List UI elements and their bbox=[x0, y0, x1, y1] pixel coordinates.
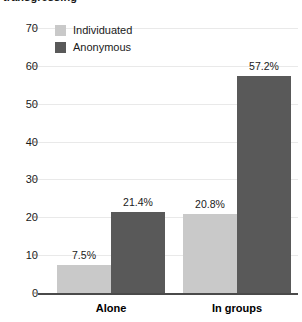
legend-swatch-icon bbox=[55, 25, 66, 36]
bar-in-groups-anonymous bbox=[237, 76, 291, 293]
legend-label: Anonymous bbox=[73, 42, 131, 53]
legend-label: Individuated bbox=[73, 25, 132, 36]
x-axis-line bbox=[38, 293, 298, 295]
y-axis-tick-mark bbox=[33, 255, 38, 256]
bar-alone-individuated bbox=[57, 265, 111, 293]
legend-swatch-icon bbox=[55, 42, 66, 53]
plot-area: 7.5%21.4%20.8%57.2% bbox=[38, 28, 298, 293]
x-axis-category-label: Alone bbox=[57, 302, 165, 314]
y-axis-tick-mark bbox=[33, 103, 38, 104]
y-axis-tick-mark bbox=[33, 179, 38, 180]
bar-value-label: 21.4% bbox=[105, 197, 171, 208]
bar-chart: transgressing 010203040506070 7.5%21.4%2… bbox=[0, 0, 302, 322]
x-axis-category-label: In groups bbox=[183, 302, 291, 314]
y-axis-tick-mark bbox=[33, 28, 38, 29]
bar-value-label: 7.5% bbox=[51, 250, 117, 261]
y-axis-tick-mark bbox=[33, 217, 38, 218]
y-axis-tick-mark bbox=[33, 293, 38, 294]
bar-in-groups-individuated bbox=[183, 214, 237, 293]
bar-value-label: 20.8% bbox=[177, 199, 243, 210]
chart-legend: Individuated Anonymous bbox=[55, 23, 132, 57]
y-axis-tick-mark bbox=[33, 141, 38, 142]
legend-item-anonymous: Anonymous bbox=[55, 40, 132, 55]
y-axis-tick-mark bbox=[33, 65, 38, 66]
legend-item-individuated: Individuated bbox=[55, 23, 132, 38]
y-axis: 010203040506070 bbox=[0, 0, 38, 322]
bar-alone-anonymous bbox=[111, 212, 165, 293]
bar-value-label: 57.2% bbox=[231, 61, 297, 72]
